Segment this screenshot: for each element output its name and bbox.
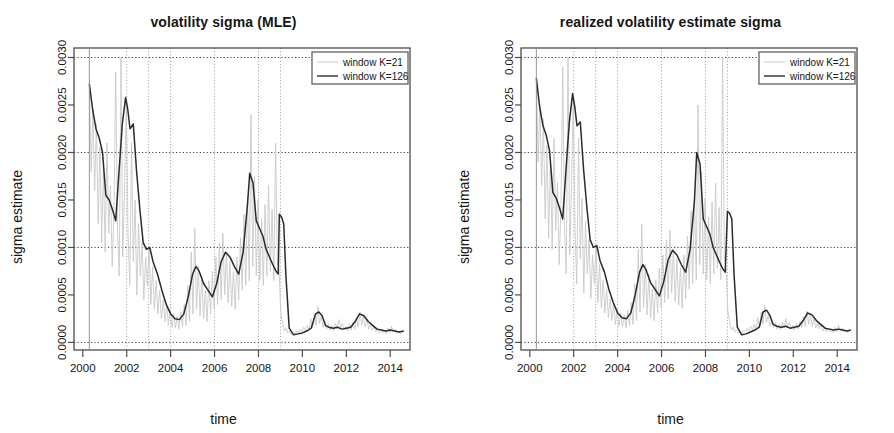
x-axis-tick-label: 2004 — [605, 362, 631, 374]
x-axis-tick-label: 2008 — [693, 362, 719, 374]
x-axis-tick-label: 2012 — [334, 362, 360, 374]
y-axis-tick-label: 0.0005 — [56, 277, 68, 312]
panel-volatility-mle: volatility sigma (MLE) sigma estimate 0.… — [0, 0, 447, 433]
x-axis-tick-label: 2000 — [70, 362, 96, 374]
legend-label-window-k21: window K=21 — [789, 57, 850, 68]
y-axis-tick-label: 0.0010 — [503, 230, 515, 265]
x-axis-tick-label: 2006 — [202, 362, 228, 374]
y-axis-tick-label: 0.0000 — [56, 325, 68, 360]
y-axis-tick-label: 0.0030 — [503, 40, 515, 75]
y-axis-tick-label: 0.0030 — [56, 40, 68, 75]
x-axis-tick-label: 2002 — [561, 362, 587, 374]
legend-label-window-k126: window K=126 — [789, 71, 856, 82]
x-axis-tick-label: 2014 — [377, 362, 403, 374]
x-axis-tick-label: 2000 — [517, 362, 543, 374]
y-axis-tick-label: 0.0015 — [503, 182, 515, 217]
y-axis-tick-label: 0.0015 — [56, 182, 68, 217]
x-axis-tick-label: 2012 — [781, 362, 807, 374]
x-axis-tick-label: 2010 — [290, 362, 316, 374]
y-axis-tick-label: 0.0005 — [503, 277, 515, 312]
figure-two-panel-volatility: volatility sigma (MLE) sigma estimate 0.… — [0, 0, 894, 433]
x-axis-tick-label: 2004 — [158, 362, 184, 374]
legend-label-window-k126: window K=126 — [342, 71, 409, 82]
y-axis-tick-label: 0.0000 — [503, 325, 515, 360]
x-axis-tick-label: 2008 — [246, 362, 272, 374]
y-axis-tick-label: 0.0010 — [56, 230, 68, 265]
series-line-window-k21 — [536, 58, 849, 334]
x-axis-tick-label: 2010 — [737, 362, 763, 374]
plot-area: 0.00000.00050.00100.00150.00200.00250.00… — [0, 0, 447, 433]
panel-realized-volatility: realized volatility estimate sigma sigma… — [447, 0, 894, 433]
x-axis-tick-label: 2006 — [649, 362, 675, 374]
x-axis-tick-label: 2014 — [824, 362, 850, 374]
y-axis-tick-label: 0.0020 — [503, 135, 515, 170]
series-line-window-k126 — [536, 78, 850, 334]
x-axis-tick-label: 2002 — [114, 362, 140, 374]
y-axis-tick-label: 0.0020 — [56, 135, 68, 170]
legend: window K=21window K=126 — [312, 52, 409, 84]
series-line-window-k126 — [89, 84, 403, 335]
x-axis-label: time — [0, 411, 447, 427]
series-line-window-k21 — [89, 58, 402, 335]
y-axis-tick-label: 0.0025 — [503, 87, 515, 122]
x-axis-label: time — [447, 411, 894, 427]
legend: window K=21window K=126 — [759, 52, 856, 84]
legend-label-window-k21: window K=21 — [342, 57, 403, 68]
y-axis-tick-label: 0.0025 — [56, 87, 68, 122]
plot-area: 0.00000.00050.00100.00150.00200.00250.00… — [447, 0, 894, 433]
